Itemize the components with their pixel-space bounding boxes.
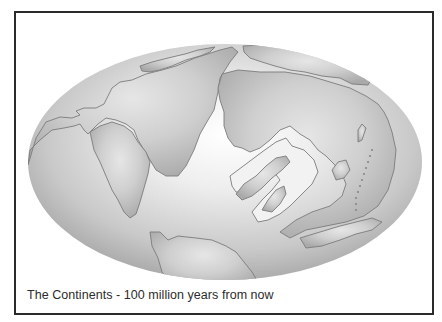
- world-map: [0, 0, 442, 322]
- figure-caption: The Continents - 100 million years from …: [27, 288, 274, 302]
